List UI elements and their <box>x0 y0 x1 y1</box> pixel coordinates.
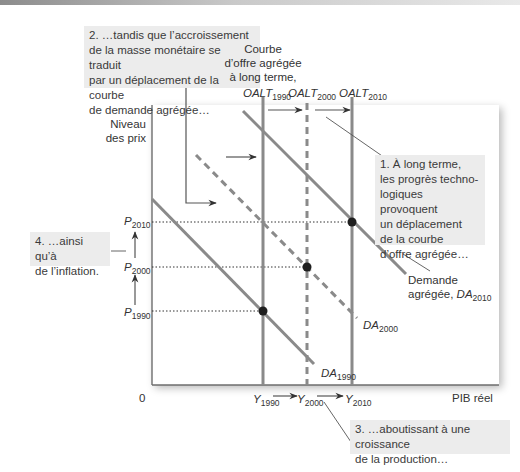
da-2000-label: DA2000 <box>363 318 398 332</box>
callout-2-line: 2. …tandis que l’accroissement <box>89 28 255 43</box>
callout-1-line: d’offre agrégée… <box>380 247 480 262</box>
oalt-heading: Courbe <box>233 42 293 56</box>
equilibrium-2010 <box>348 218 357 227</box>
callout-3-line: 3. …aboutissant à une croissance <box>355 422 505 452</box>
price-guides <box>152 222 352 311</box>
x-axis-label: PIB réel <box>452 391 493 405</box>
callout-3-output-growth: 3. …aboutissant à une croissance de la p… <box>350 420 510 454</box>
y-axis-label-line: des prix <box>100 131 146 145</box>
oalt-2010-label: OALT2010 <box>339 86 387 100</box>
y-axis-label-line: Niveau <box>100 117 146 131</box>
p-2010-label: P2010 <box>124 214 151 228</box>
callout-4-line: 4. …ainsi qu’à <box>35 234 105 264</box>
da-1990-label: DA1990 <box>321 366 356 380</box>
oalt-1990-label: OALT1990 <box>243 86 291 100</box>
callout-1-line: logiques provoquent <box>380 187 480 217</box>
da-1990-curve <box>152 199 314 364</box>
callout-1-line: les progrès techno- <box>380 172 480 187</box>
y-2000-label: Y2000 <box>297 392 324 406</box>
p-1990-label: P1990 <box>124 305 151 319</box>
heading-line: d’offre agrégée <box>213 56 313 70</box>
callout-4-line: de l’inflation. <box>35 264 105 279</box>
y-2010-label: Y2010 <box>345 392 372 406</box>
p-2000-label: P2000 <box>124 260 151 274</box>
origin-label: 0 <box>139 391 145 405</box>
y-axis-label: Niveau des prix <box>100 117 146 145</box>
oalt-curves <box>263 97 352 385</box>
equilibrium-2000 <box>303 263 312 272</box>
callout-1-line: de la courbe <box>380 232 480 247</box>
shift-arrows <box>135 86 350 396</box>
callout-3-line: de la production… <box>355 452 505 467</box>
heading-line: Courbe <box>233 42 293 56</box>
da-2010-label: Demande agrégée, DA2010 <box>408 273 492 301</box>
callout-1-line: un déplacement <box>380 217 480 232</box>
callout-1-line: 1. À long terme, <box>380 157 480 172</box>
callout-2-line: de demande agrégée… <box>89 103 255 118</box>
da-2010-label-line: Demande <box>408 273 492 287</box>
callout-1-technology: 1. À long terme, les progrès techno- log… <box>375 155 485 245</box>
equilibrium-1990 <box>259 307 268 316</box>
y-1990-label: Y1990 <box>253 392 280 406</box>
da-2000-curve <box>196 155 357 318</box>
callout-4-inflation: 4. …ainsi qu’à de l’inflation. <box>30 232 110 266</box>
oalt-2000-label: OALT2000 <box>288 86 336 100</box>
oalt-heading-2: d’offre agrégée à long terme, <box>213 56 313 84</box>
heading-line: à long terme, <box>213 70 313 84</box>
